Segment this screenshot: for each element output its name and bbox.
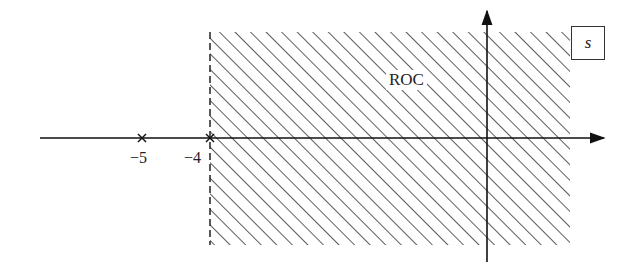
s-plane-diagram — [0, 0, 630, 276]
s-plane-label-box: s — [571, 26, 605, 60]
s-plane-label: s — [585, 33, 592, 53]
roc-label: ROC — [386, 70, 427, 90]
pole-label-minus-5: −5 — [130, 149, 147, 167]
pole-label-minus-4: −4 — [184, 149, 201, 167]
